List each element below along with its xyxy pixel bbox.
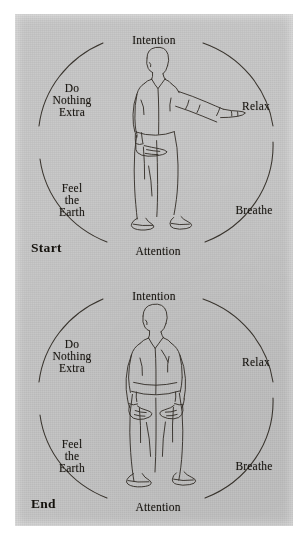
figure-start — [131, 47, 245, 230]
label-do-nothing-extra: Do Nothing Extra — [37, 338, 107, 375]
panel-corner-label-start: Start — [31, 240, 62, 256]
label-relax: Relax — [228, 100, 284, 112]
label-attention: Attention — [111, 245, 205, 257]
label-intention: Intention — [107, 34, 201, 46]
label-intention: Intention — [107, 290, 201, 302]
panel-end-artwork — [15, 270, 293, 526]
panel-start-artwork — [15, 14, 293, 270]
label-breathe: Breathe — [221, 204, 287, 216]
panel-end: Do Nothing Extra Intention Relax Breathe… — [15, 270, 293, 526]
label-relax: Relax — [228, 356, 284, 368]
label-attention: Attention — [111, 501, 205, 513]
panel-start: Do Nothing Extra Intention Relax Breathe… — [15, 14, 293, 270]
label-feel-the-earth: Feel the Earth — [44, 438, 100, 475]
scanned-paper-sheet: Do Nothing Extra Intention Relax Breathe… — [15, 14, 293, 526]
label-feel-the-earth: Feel the Earth — [44, 182, 100, 219]
label-do-nothing-extra: Do Nothing Extra — [37, 82, 107, 119]
page-canvas: Do Nothing Extra Intention Relax Breathe… — [0, 0, 308, 539]
figure-end — [126, 304, 196, 487]
label-breathe: Breathe — [221, 460, 287, 472]
panel-corner-label-end: End — [31, 496, 56, 512]
